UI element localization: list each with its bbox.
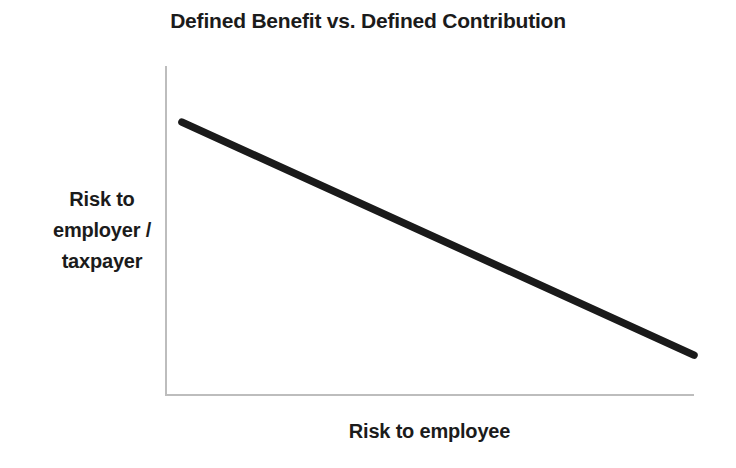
data-series-line [165, 66, 694, 396]
series-line-risk-tradeoff [182, 122, 694, 355]
chart-title: Defined Benefit vs. Defined Contribution [0, 8, 736, 34]
chart-canvas: Defined Benefit vs. Defined Contribution… [0, 0, 736, 468]
plot-area [165, 66, 694, 396]
x-axis-label: Risk to employee [165, 418, 694, 444]
